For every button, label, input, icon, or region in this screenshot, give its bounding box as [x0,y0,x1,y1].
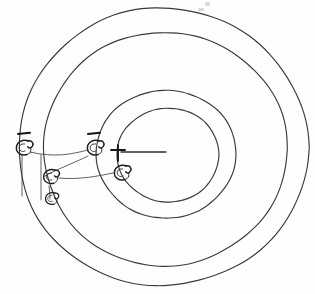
glyph-marker-upper-center-overbar [88,133,100,134]
paper-background [0,0,315,294]
manuscript-diagram-figure: Hand-drawn eccentric orb diagram ink on … [0,0,315,294]
smudge-top-right-2 [198,8,204,11]
smudge-top-right [205,2,210,6]
diagram-canvas [0,0,315,294]
glyph-marker-outer-left-overbar [18,133,30,134]
